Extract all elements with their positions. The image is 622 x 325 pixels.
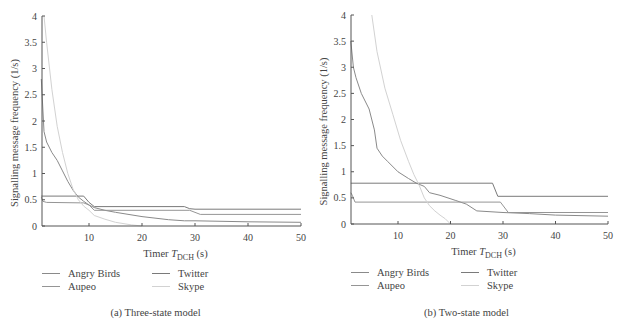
y-tick-label: 0.5 [334, 192, 347, 203]
y-axis-label: Signalling message frequency (1/s) [318, 57, 330, 205]
series-line-angry-birds [41, 79, 301, 222]
legend-label: Skype [487, 280, 513, 291]
x-tick-label: 50 [296, 232, 306, 243]
legend-swatch-icon [351, 272, 369, 273]
legend-label: Twitter [178, 268, 208, 279]
x-tick-label: 30 [190, 232, 200, 243]
line-chart-three-state: 00.511.522.533.541020304050Timer TDCH (s… [0, 0, 311, 300]
legend-swatch-icon [351, 285, 369, 286]
x-tick-label: 20 [137, 232, 147, 243]
legend-item-angry-birds: Angry Birds [42, 268, 120, 279]
legend-item-aupeo: Aupeo [42, 281, 96, 292]
legend-label: Skype [178, 281, 204, 292]
y-tick-label: 0 [32, 221, 37, 232]
legend-item-aupeo: Aupeo [351, 280, 405, 291]
y-tick-label: 3.5 [334, 36, 347, 47]
y-axis-label: Signalling message frequency (1/s) [9, 59, 21, 207]
legend-label: Angry Birds [68, 268, 120, 279]
x-axis-label: Timer TDCH (s) [143, 248, 208, 262]
y-tick-label: 2.5 [25, 89, 38, 100]
legend-item-skype: Skype [152, 281, 204, 292]
caption-three-state: (a) Three-state model [0, 307, 311, 318]
legend-label: Twitter [487, 267, 517, 278]
series-line-aupeo [351, 193, 608, 213]
x-tick-label: 20 [446, 230, 456, 241]
legend-swatch-icon [42, 286, 60, 287]
x-tick-label: 40 [243, 232, 253, 243]
y-tick-label: 3 [341, 62, 346, 73]
chart-panel-two-state: 00.511.522.533.541020304050Timer TDCH (s… [311, 0, 622, 325]
axes [42, 16, 301, 226]
chart-panel-three-state: 00.511.522.533.541020304050Timer TDCH (s… [0, 0, 311, 325]
y-tick-label: 2.5 [334, 88, 347, 99]
legend-swatch-icon [461, 285, 479, 286]
legend-swatch-icon [152, 286, 170, 287]
x-axis-label: Timer TDCH (s) [451, 246, 516, 260]
legend-item-twitter: Twitter [461, 267, 517, 278]
legend-label: Aupeo [377, 280, 405, 291]
y-tick-label: 2 [32, 116, 37, 127]
x-tick-label: 50 [603, 230, 613, 241]
series-line-twitter [351, 183, 608, 196]
series-line-angry-birds [351, 41, 608, 216]
legend-swatch-icon [152, 273, 170, 274]
y-tick-label: 4 [341, 10, 346, 21]
legend-swatch-icon [461, 272, 479, 273]
y-tick-label: 1.5 [25, 142, 38, 153]
x-tick-label: 10 [84, 232, 94, 243]
legend-item-angry-birds: Angry Birds [351, 267, 429, 278]
y-tick-label: 2 [341, 114, 346, 125]
y-tick-label: 3.5 [25, 37, 38, 48]
series-line-aupeo [41, 197, 301, 214]
series-line-skype [372, 15, 451, 224]
legend-swatch-icon [42, 273, 60, 274]
legend-item-skype: Skype [461, 280, 513, 291]
axes [351, 15, 608, 224]
y-tick-label: 4 [32, 11, 37, 22]
y-tick-label: 1 [341, 166, 346, 177]
x-tick-label: 10 [393, 230, 403, 241]
y-tick-label: 1 [32, 168, 37, 179]
y-tick-label: 3 [32, 63, 37, 74]
legend-label: Aupeo [68, 281, 96, 292]
caption-two-state: (b) Two-state model [311, 307, 622, 318]
y-tick-label: 0.5 [25, 194, 38, 205]
x-tick-label: 40 [551, 230, 561, 241]
line-chart-two-state: 00.511.522.533.541020304050Timer TDCH (s… [311, 0, 622, 300]
legend-item-twitter: Twitter [152, 268, 208, 279]
legend-label: Angry Birds [377, 267, 429, 278]
y-tick-label: 0 [341, 219, 346, 230]
y-tick-label: 1.5 [334, 140, 347, 151]
x-tick-label: 30 [498, 230, 508, 241]
series-line-skype [44, 16, 142, 226]
